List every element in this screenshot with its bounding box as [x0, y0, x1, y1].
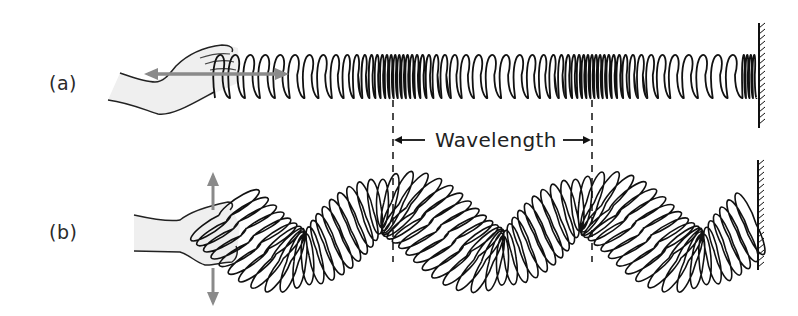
slinky-wave-figure: (a) (b) Wavelength	[0, 0, 798, 316]
spring-a	[213, 55, 756, 98]
wall-a-icon	[759, 23, 765, 128]
spring-b	[191, 171, 765, 292]
diagram-canvas	[0, 0, 798, 316]
